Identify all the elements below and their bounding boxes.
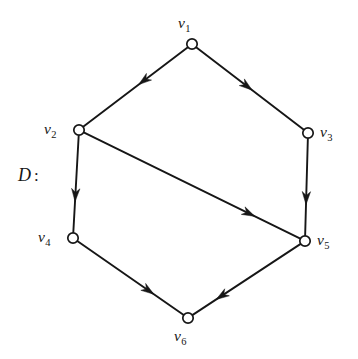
vertex-label-v1: v1 <box>178 15 190 31</box>
vertex-label-letter-v3: v <box>320 123 327 140</box>
edge-v5-to-v6 <box>192 244 300 315</box>
diagram-name-label: D: <box>18 166 39 184</box>
graph-canvas <box>0 0 358 359</box>
diagram-name-letter: D <box>18 165 32 185</box>
vertex-label-v3: v3 <box>320 124 332 140</box>
edges-layer <box>73 47 308 315</box>
edge-v1-to-v2 <box>83 47 188 127</box>
directed-graph-figure: v1v2v3v4v5v6 D: <box>0 0 358 359</box>
vertex-label-letter-v2: v <box>44 120 51 137</box>
vertex-node-v4 <box>68 233 78 243</box>
arrowhead-v1-to-v2 <box>139 73 152 84</box>
vertex-label-letter-v6: v <box>174 327 181 344</box>
diagram-name-colon: : <box>34 166 39 185</box>
vertex-label-subscript-v5: 5 <box>324 240 329 251</box>
vertex-label-v5: v5 <box>317 232 329 248</box>
arrowhead-v5-to-v6 <box>216 289 229 300</box>
vertex-label-subscript-v6: 6 <box>181 336 186 347</box>
nodes-layer <box>68 39 313 323</box>
vertex-label-letter-v1: v <box>178 14 185 31</box>
vertex-label-letter-v5: v <box>317 231 324 248</box>
vertex-label-subscript-v1: 1 <box>185 23 190 34</box>
vertex-node-v3 <box>303 128 313 138</box>
edge-v3-to-v5 <box>305 138 308 236</box>
edge-v2-to-v4 <box>73 135 78 233</box>
vertex-label-subscript-v3: 3 <box>327 132 332 143</box>
vertex-label-letter-v4: v <box>38 228 45 245</box>
vertex-label-subscript-v4: 4 <box>45 237 50 248</box>
edge-v4-to-v6 <box>77 241 183 315</box>
vertex-node-v5 <box>300 236 310 246</box>
vertex-node-v2 <box>74 125 84 135</box>
vertex-label-subscript-v2: 2 <box>51 129 56 140</box>
arrowhead-v4-to-v6 <box>141 283 154 294</box>
vertex-label-v4: v4 <box>38 229 50 245</box>
vertex-label-v6: v6 <box>174 328 186 344</box>
vertex-node-v1 <box>187 39 197 49</box>
edge-v2-to-v5 <box>84 132 301 238</box>
vertex-label-v2: v2 <box>44 121 56 137</box>
vertex-node-v6 <box>183 313 193 323</box>
